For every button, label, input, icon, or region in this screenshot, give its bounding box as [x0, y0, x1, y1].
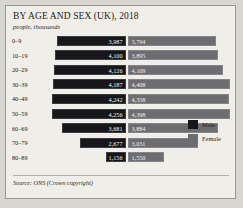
bar-value-male: 4,187	[109, 80, 123, 90]
age-group-label: 30–39	[12, 79, 42, 90]
chart-row: 40–494,2424,358	[6, 93, 237, 104]
bar-value-male: 4,100	[109, 51, 123, 61]
bar-male: 4,242	[52, 94, 126, 104]
bar-male: 2,677	[80, 138, 126, 148]
bar-value-female: 1,550	[132, 153, 146, 163]
bar-female: 4,109	[128, 65, 223, 75]
chart-plot-area: 0–93,9873,79410–194,1003,89520–294,1264,…	[6, 34, 237, 172]
age-group-label: 10–19	[12, 50, 42, 61]
footer-divider	[13, 175, 229, 176]
age-group-label: 50–59	[12, 108, 42, 119]
bar-value-female: 3,895	[132, 51, 146, 61]
age-group-label: 20–29	[12, 64, 42, 75]
bar-female: 4,408	[128, 79, 230, 89]
bar-female: 1,550	[128, 152, 164, 162]
bar-male: 4,187	[53, 79, 126, 89]
bar-value-female: 4,398	[132, 110, 146, 120]
bar-male: 1,156	[106, 152, 126, 162]
bar-male: 3,987	[57, 36, 126, 46]
bar-value-male: 3,681	[109, 124, 123, 134]
age-group-label: 40–49	[12, 93, 42, 104]
age-group-label: 60–69	[12, 123, 42, 134]
bar-value-female: 3,031	[132, 139, 146, 149]
legend-label-female: Female	[202, 132, 221, 145]
bar-female: 3,895	[128, 50, 218, 60]
legend-item-male: Male	[188, 118, 236, 132]
chart-source-text: Source: ONS (Crown copyright)	[13, 179, 93, 186]
age-group-label: 0–9	[12, 35, 42, 46]
legend-swatch-female-icon	[188, 134, 198, 143]
bar-value-male: 1,156	[109, 153, 123, 163]
age-group-label: 70–79	[12, 137, 42, 148]
legend-swatch-male-icon	[188, 120, 198, 129]
chart-row: 10–194,1003,895	[6, 50, 237, 61]
bar-value-female: 4,408	[132, 80, 146, 90]
age-group-label: 80–89	[12, 152, 42, 163]
bar-male: 4,126	[54, 65, 126, 75]
bar-female: 4,358	[128, 94, 229, 104]
legend-label-male: Male	[202, 118, 215, 131]
bar-value-male: 3,987	[109, 37, 123, 47]
bar-value-female: 3,884	[132, 124, 146, 134]
bar-female: 4,398	[128, 109, 230, 119]
chart-source: Source: ONS (Crown copyright)	[13, 179, 93, 186]
bar-male: 4,256	[52, 109, 126, 119]
bar-value-female: 4,109	[132, 66, 146, 76]
bar-value-male: 4,256	[109, 110, 123, 120]
bar-value-male: 2,677	[109, 139, 123, 149]
bar-value-female: 3,794	[132, 37, 146, 47]
chart-row: 20–294,1264,109	[6, 64, 237, 75]
chart-subtitle: people, thousands	[13, 23, 60, 30]
bar-female: 3,794	[128, 36, 216, 46]
chart-row: 80–891,1561,550	[6, 152, 237, 163]
bar-value-male: 4,242	[109, 95, 123, 105]
bar-value-male: 4,126	[109, 66, 123, 76]
legend-item-female: Female	[188, 132, 236, 146]
bar-male: 3,681	[62, 123, 126, 133]
bar-male: 4,100	[55, 50, 126, 60]
chart-title: BY AGE AND SEX (UK), 2018	[13, 11, 139, 21]
chart-figure: BY AGE AND SEX (UK), 2018 people, thousa…	[5, 5, 236, 199]
chart-row: 0–93,9873,794	[6, 35, 237, 46]
chart-row: 30–394,1874,408	[6, 79, 237, 90]
chart-legend: Male Female	[188, 118, 236, 146]
bar-value-female: 4,358	[132, 95, 146, 105]
